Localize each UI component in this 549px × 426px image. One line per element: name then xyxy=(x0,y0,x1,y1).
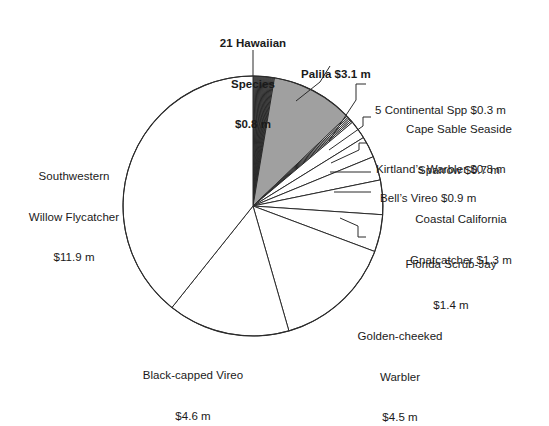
label-gnatcatcher-line1: Coastal California xyxy=(378,213,544,227)
label-flycatcher-line1: Southwestern xyxy=(6,170,142,184)
label-cape-sable-line1: Cape Sable Seaside xyxy=(376,123,542,137)
label-black-capped-line2: $4.6 m xyxy=(112,410,274,424)
label-golden-cheeked-line2: Warbler xyxy=(333,371,467,385)
label-golden-cheeked-warbler: Golden-cheeked Warbler $4.5 m xyxy=(333,303,467,426)
label-black-capped-line1: Black-capped Vireo xyxy=(112,369,274,383)
label-black-capped-vireo: Black-capped Vireo $4.6 m xyxy=(112,342,274,426)
label-golden-cheeked-line1: Golden-cheeked xyxy=(333,330,467,344)
label-flycatcher-line2: Willow Flycatcher xyxy=(6,211,142,225)
label-golden-cheeked-line3: $4.5 m xyxy=(333,411,467,425)
label-scrub-jay-line1: Florida Scrub-Jay xyxy=(376,258,526,272)
label-flycatcher-line3: $11.9 m xyxy=(6,251,142,265)
label-southwestern-willow-flycatcher: Southwestern Willow Flycatcher $11.9 m xyxy=(6,143,142,292)
label-hawaiian-line3: $0.8 m xyxy=(185,118,321,132)
